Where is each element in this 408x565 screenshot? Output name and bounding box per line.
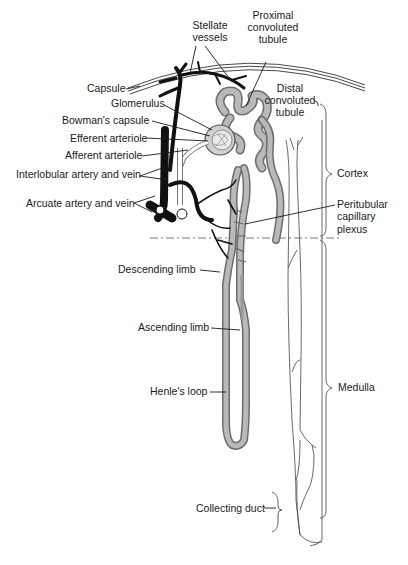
label-stellate-vessels-2: vessels	[192, 31, 227, 43]
label-ascending-limb: Ascending limb	[138, 321, 209, 333]
label-stellate-vessels: Stellate	[192, 19, 227, 31]
label-arcuate: Arcuate artery and vein	[26, 197, 135, 209]
labels: Stellate vessels Proximal convoluted tub…	[16, 9, 388, 514]
label-efferent-arteriole: Efferent arteriole	[70, 132, 148, 144]
kidney-capsule	[128, 63, 365, 94]
collecting-duct-shape	[286, 120, 322, 546]
label-proximal-tubule-2: convoluted	[248, 21, 299, 33]
label-distal-tubule: Distal	[277, 82, 303, 94]
nephron-diagram: Stellate vessels Proximal convoluted tub…	[0, 0, 408, 565]
label-glomerulus: Glomerulus	[111, 97, 165, 109]
label-proximal-tubule: Proximal	[253, 9, 294, 21]
label-henles-loop: Henle's loop	[150, 385, 208, 397]
label-afferent-arteriole: Afferent arteriole	[65, 149, 143, 161]
label-medulla: Medulla	[338, 381, 375, 393]
label-peritubular: Peritubular	[337, 198, 388, 210]
label-collecting-duct: Collecting duct	[196, 502, 265, 514]
label-descending-limb: Descending limb	[118, 263, 196, 275]
label-peritubular-2: capillary	[337, 210, 376, 222]
glomerulus-shape	[205, 125, 235, 155]
label-bowmans-capsule: Bowman's capsule	[62, 114, 149, 126]
collecting-duct-brace	[272, 492, 282, 532]
label-peritubular-3: plexus	[337, 223, 367, 235]
label-distal-tubule-3: tubule	[276, 106, 305, 118]
label-capsule: Capsule	[87, 82, 126, 94]
label-distal-tubule-2: convoluted	[265, 94, 316, 106]
label-proximal-tubule-3: tubule	[259, 33, 288, 45]
label-cortex: Cortex	[337, 167, 369, 179]
label-interlobular: Interlobular artery and vein	[16, 168, 141, 180]
